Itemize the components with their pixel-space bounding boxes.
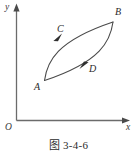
point-label-D: D bbox=[88, 63, 97, 74]
x-axis-label: x bbox=[125, 122, 131, 132]
coordinate-diagram: y x O A B C D bbox=[0, 0, 137, 132]
path-curve-upper-A-to-B bbox=[45, 22, 114, 81]
y-axis-label: y bbox=[4, 2, 10, 12]
figure-container: y x O A B C D 图 3-4-6 bbox=[0, 0, 137, 158]
path-curve-lower-B-to-A bbox=[45, 22, 114, 81]
origin-label: O bbox=[5, 122, 12, 132]
y-axis-arrowhead bbox=[13, 4, 19, 12]
point-label-B: B bbox=[115, 6, 121, 17]
direction-arrowhead-C bbox=[53, 34, 62, 42]
point-label-A: A bbox=[33, 81, 41, 92]
figure-caption: 图 3-4-6 bbox=[0, 136, 137, 152]
point-label-C: C bbox=[57, 23, 64, 34]
